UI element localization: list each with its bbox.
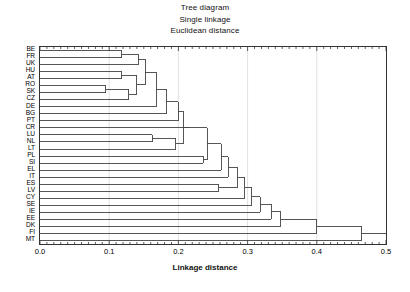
plot-area [39, 46, 387, 245]
x-tick-0-3: 0.3 [242, 247, 252, 256]
x-tick-0-2: 0.2 [173, 247, 183, 256]
x-tick-0-1: 0.1 [104, 247, 114, 256]
chart-titles: Tree diagram Single linkage Euclidean di… [0, 2, 410, 37]
dendrogram-tree [40, 47, 386, 244]
chart-title: Tree diagram [0, 2, 410, 14]
chart-subtitle-linkage: Single linkage [0, 14, 410, 26]
x-tick-0: 0.0 [35, 247, 45, 256]
leaf-label-mt: MT [26, 236, 35, 243]
x-axis-tick-labels: 0.00.10.20.30.40.5 [0, 247, 410, 261]
tree-diagram-figure: Tree diagram Single linkage Euclidean di… [0, 0, 410, 292]
leaf-label-axis: BEFRUKHUATROSKCZDEBGPTCRLUNLLTPLSIELITES… [0, 46, 37, 245]
x-axis-title: Linkage distance [0, 263, 410, 272]
x-tick-0-4: 0.4 [312, 247, 322, 256]
x-tick-0-5: 0.5 [381, 247, 391, 256]
chart-subtitle-metric: Euclidean distance [0, 25, 410, 37]
